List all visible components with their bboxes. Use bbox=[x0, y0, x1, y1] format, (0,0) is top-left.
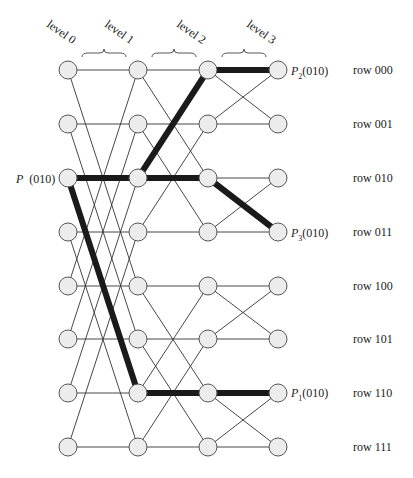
row-label: row 110 bbox=[353, 386, 392, 400]
butterfly-network-diagram: level 0 level 1 level 2 level 3 row 000 … bbox=[0, 0, 413, 478]
row-label: row 011 bbox=[353, 225, 392, 239]
switch-node bbox=[269, 61, 287, 79]
svg-text:P (010): P (010) bbox=[15, 172, 55, 186]
row-label: row 111 bbox=[353, 440, 392, 454]
switch-node bbox=[199, 438, 217, 456]
switch-node bbox=[129, 384, 147, 402]
row-label: row 101 bbox=[353, 332, 393, 346]
switch-node bbox=[199, 330, 217, 348]
level-brace bbox=[82, 49, 126, 57]
switch-node bbox=[269, 384, 287, 402]
svg-text:P1(010): P1(010) bbox=[290, 386, 328, 403]
switch-node bbox=[129, 115, 147, 133]
level-label-1: level 1 bbox=[102, 17, 137, 47]
highlighted-paths bbox=[68, 70, 278, 393]
row-label: row 010 bbox=[353, 171, 393, 185]
destination-labels: P2(010) P3(010) P1(010) bbox=[290, 64, 328, 403]
switch-node bbox=[59, 169, 77, 187]
level-braces bbox=[82, 49, 266, 57]
switch-node bbox=[199, 223, 217, 241]
level-labels: level 0 level 1 level 2 level 3 bbox=[44, 17, 279, 47]
svg-text:P2(010): P2(010) bbox=[290, 64, 328, 81]
switch-node bbox=[199, 277, 217, 295]
dest-address: (010) bbox=[302, 226, 328, 240]
source-label: P (010) bbox=[15, 172, 55, 186]
switch-node bbox=[199, 169, 217, 187]
switch-node bbox=[269, 277, 287, 295]
switch-node bbox=[59, 115, 77, 133]
switch-node bbox=[59, 330, 77, 348]
switch-node bbox=[129, 277, 147, 295]
row-labels: row 000 row 001 row 010 row 011 row 100 … bbox=[353, 63, 393, 454]
switch-node bbox=[129, 438, 147, 456]
level-brace bbox=[222, 49, 266, 57]
source-address: (010) bbox=[29, 172, 55, 186]
switch-node bbox=[59, 384, 77, 402]
switch-node bbox=[129, 61, 147, 79]
svg-text:P3(010): P3(010) bbox=[290, 226, 328, 243]
switch-node bbox=[59, 438, 77, 456]
switch-node bbox=[59, 223, 77, 241]
switch-node bbox=[199, 115, 217, 133]
level-label-2: level 2 bbox=[174, 17, 209, 47]
switch-node bbox=[59, 277, 77, 295]
level-label-0: level 0 bbox=[44, 17, 79, 47]
switch-node bbox=[269, 330, 287, 348]
switch-node bbox=[199, 384, 217, 402]
dest-address: (010) bbox=[302, 64, 328, 78]
dest-address: (010) bbox=[302, 386, 328, 400]
switch-node bbox=[129, 330, 147, 348]
switch-node bbox=[269, 115, 287, 133]
level-label-3: level 3 bbox=[244, 17, 279, 47]
row-label: row 100 bbox=[353, 279, 393, 293]
switch-node bbox=[129, 223, 147, 241]
switch-node bbox=[129, 169, 147, 187]
switch-node bbox=[199, 61, 217, 79]
row-label: row 000 bbox=[353, 63, 393, 77]
row-label: row 001 bbox=[353, 117, 393, 131]
switch-node bbox=[269, 223, 287, 241]
switch-node bbox=[269, 169, 287, 187]
switch-node bbox=[269, 438, 287, 456]
source-name: P bbox=[15, 172, 24, 186]
level-brace bbox=[152, 49, 196, 57]
switch-node bbox=[59, 61, 77, 79]
